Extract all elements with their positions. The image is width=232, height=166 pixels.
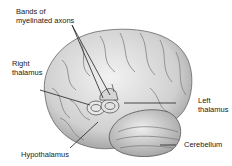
label-right-thalamus: Right thalamus [12, 60, 42, 77]
label-left-thalamus: Left thalamus [198, 97, 228, 114]
label-bands-of-myelinated-axons: Bands of myelinated axons [16, 8, 74, 25]
label-hypothalamus: Hypothalamus [21, 151, 69, 160]
label-cerebellum: Cerebellum [184, 141, 222, 150]
